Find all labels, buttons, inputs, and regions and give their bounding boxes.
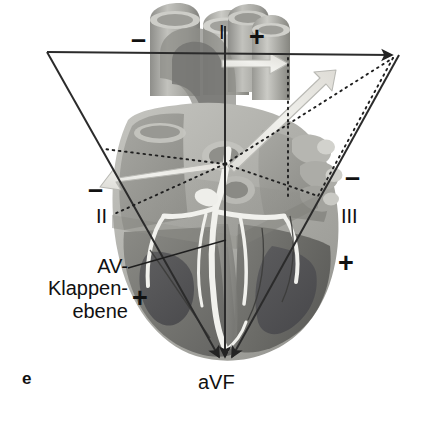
av-plane-label-line1: AV- bbox=[0, 255, 128, 277]
figure-panel-e: – I + – II + – III + AV- Klappen- ebene … bbox=[0, 0, 421, 422]
lead-i-label: I bbox=[219, 22, 225, 42]
avf-label: aVF bbox=[198, 372, 235, 392]
lead-iii-negative-sign: – bbox=[345, 164, 360, 191]
lead-iii-positive-sign: + bbox=[338, 250, 354, 277]
lead-ii-negative-sign: – bbox=[88, 176, 103, 203]
av-plane-label-line3: ebene bbox=[0, 300, 128, 322]
lead-i-negative-sign: – bbox=[131, 26, 146, 53]
av-plane-label: AV- Klappen- ebene bbox=[0, 255, 128, 322]
lead-ii-label: II bbox=[96, 206, 107, 226]
lead-iii-label: III bbox=[341, 206, 358, 226]
lead-ii-positive-sign: + bbox=[132, 285, 148, 312]
av-plane-label-line2: Klappen- bbox=[0, 277, 128, 299]
lead-i-positive-sign: + bbox=[249, 24, 265, 51]
heart-einthoven-illustration bbox=[0, 0, 421, 422]
panel-letter: e bbox=[22, 370, 31, 387]
